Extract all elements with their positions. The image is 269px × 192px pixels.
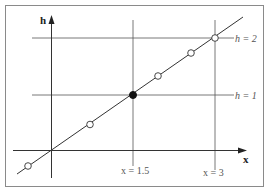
open-point bbox=[25, 163, 32, 170]
open-point bbox=[155, 73, 162, 80]
filled-point bbox=[130, 92, 137, 99]
x1.5-label: x = 1.5 bbox=[121, 165, 149, 176]
y-axis-arrow-icon bbox=[49, 15, 55, 24]
h1-label: h = 1 bbox=[235, 90, 257, 101]
open-point bbox=[188, 50, 195, 57]
open-point bbox=[212, 35, 219, 42]
x-axis-label: x bbox=[243, 153, 249, 165]
diagram-canvas: h x h = 2 h = 1 x = 1.5 x = 3 bbox=[0, 0, 269, 192]
h2-label: h = 2 bbox=[235, 33, 257, 44]
open-point bbox=[87, 121, 94, 128]
y-axis-label: h bbox=[40, 14, 46, 26]
x3-label: x = 3 bbox=[203, 167, 224, 178]
